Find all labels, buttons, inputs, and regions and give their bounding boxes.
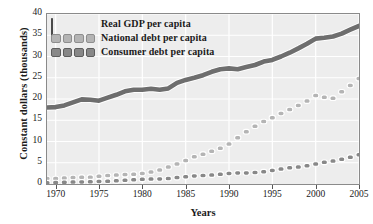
series-marker [70,180,76,184]
series-marker [347,83,353,88]
series-marker [243,171,249,176]
series-marker [217,146,223,151]
x-axis-tick-mark [316,185,317,189]
y-axis-tick-label: 15 [16,114,42,124]
series-marker [191,155,197,160]
series-marker [252,124,258,129]
series-marker [183,158,189,163]
x-axis-tick-mark [229,185,230,189]
series-marker [321,160,327,165]
series-marker [330,96,336,101]
series-marker [157,168,163,173]
series-marker [243,129,249,134]
x-axis-tick-label: 1985 [166,189,206,199]
x-axis-tick-label: 2000 [296,189,336,199]
chart-figure: Constant dollars (thousands) 05101520253… [0,0,373,224]
series-marker [183,175,189,180]
series-marker [96,174,102,179]
series-marker [261,119,267,124]
x-axis-tick-label: 1995 [252,189,292,199]
series-marker [148,170,154,175]
series-marker [139,177,145,182]
x-axis-tick-mark [272,185,273,189]
series-marker [139,171,145,176]
x-axis-tick-label: 2005 [339,189,373,199]
series-marker [174,175,180,180]
legend-label-national-debt: National debt per capita [101,32,207,43]
legend-item-consumer-debt: Consumer debt per capita [48,45,224,58]
x-axis-tick-label: 1975 [79,189,119,199]
series-dots-consumer-debt [47,152,359,184]
x-axis-tick-mark [359,185,360,189]
y-axis-tick-label: 20 [16,93,42,103]
legend-label-consumer-debt: Consumer debt per capita [101,46,214,57]
series-marker [165,176,171,181]
x-axis-tick-mark [99,185,100,189]
series-marker [339,157,345,162]
x-axis-tick-label: 1990 [209,189,249,199]
series-marker [209,149,215,154]
series-marker [226,142,232,147]
chart-legend: Real GDP per capita National debt per ca… [48,15,224,61]
legend-swatch-dots-dark-icon [51,47,95,56]
x-axis-title: Years [46,207,360,218]
y-axis-tick-label: 25 [16,72,42,82]
series-marker [200,173,206,178]
series-marker [174,162,180,167]
series-marker [122,172,128,177]
legend-item-national-debt: National debt per capita [48,31,224,44]
series-marker [209,173,215,178]
series-marker [235,171,241,176]
legend-swatch-solid-icon [51,19,95,28]
series-marker [339,90,345,95]
series-marker [295,103,301,108]
series-marker [313,93,319,98]
series-marker [313,162,319,167]
series-marker [304,163,310,168]
series-marker [321,95,327,100]
series-marker [79,175,85,180]
series-marker [113,173,119,178]
series-marker [105,179,111,184]
legend-item-gdp: Real GDP per capita [48,17,224,30]
series-marker [53,180,59,184]
x-axis-tick-label: 1980 [122,189,162,199]
series-marker [278,167,284,172]
x-axis-tick-mark [56,185,57,189]
y-axis-tick-label: 30 [16,51,42,61]
series-marker [131,177,137,182]
series-marker [261,169,267,174]
x-axis-tick-label: 1970 [36,189,76,199]
series-marker [131,172,137,177]
series-marker [287,107,293,112]
series-marker [278,111,284,116]
series-marker [269,115,275,120]
series-marker [165,165,171,170]
series-marker [330,159,336,164]
x-axis-tick-mark [142,185,143,189]
y-axis-tick-label: 5 [16,157,42,167]
x-axis-tick-mark [186,185,187,189]
series-marker [356,76,359,81]
y-axis-tick-label: 0 [16,178,42,188]
series-marker [148,177,154,182]
series-marker [304,99,310,104]
legend-label-gdp: Real GDP per capita [101,18,191,29]
series-marker [113,179,119,184]
series-marker [217,172,223,177]
series-marker [61,180,67,184]
series-marker [295,165,301,170]
series-marker [70,175,76,180]
y-axis-tick-label: 10 [16,136,42,146]
series-marker [87,179,93,184]
series-marker [105,173,111,178]
legend-swatch-dots-light-icon [51,33,95,42]
series-marker [96,179,102,184]
series-marker [235,135,241,140]
y-axis-tick-label: 40 [16,8,42,18]
series-marker [157,177,163,182]
series-marker [191,174,197,179]
series-marker [252,170,258,175]
series-marker [269,168,275,173]
series-marker [287,166,293,171]
